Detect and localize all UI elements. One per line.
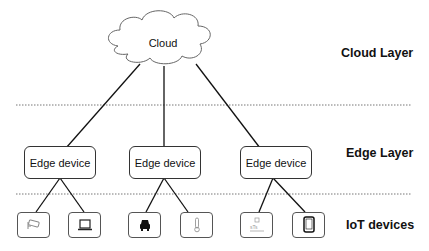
layer-label-cloud: Cloud Layer	[341, 46, 413, 60]
iot-device-tablet	[292, 212, 325, 238]
security-camera-icon	[26, 219, 42, 231]
connection-lines	[0, 0, 429, 251]
layer-label-iot: IoT devices	[346, 218, 414, 232]
cloud-label: Cloud	[134, 37, 192, 49]
thermometer-icon	[192, 217, 202, 233]
iot-device-smart-meter: sTs	[240, 212, 273, 238]
edge-device-3: Edge device	[240, 146, 312, 179]
tablet-icon	[302, 216, 316, 234]
laptop-icon	[77, 219, 93, 231]
iot-device-camera	[17, 212, 50, 238]
car-icon	[138, 218, 152, 232]
edge-device-1: Edge device	[24, 146, 96, 179]
iot-device-laptop	[68, 212, 101, 238]
svg-text:sTs: sTs	[250, 224, 258, 230]
iot-device-car	[128, 212, 161, 238]
smart-meter-icon: sTs	[248, 217, 266, 233]
edge-device-2: Edge device	[129, 146, 201, 179]
iot-device-thermometer	[180, 212, 213, 238]
layer-label-edge: Edge Layer	[346, 146, 413, 160]
